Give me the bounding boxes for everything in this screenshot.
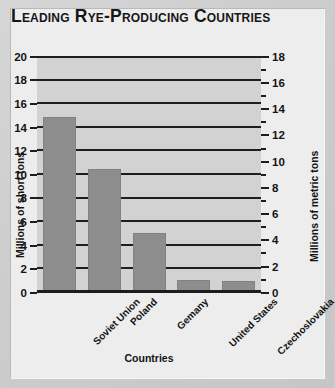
y-tick-left: 18 [11, 71, 37, 89]
y-tick-left-label: 0 [11, 287, 27, 299]
x-axis-title: Countries [37, 352, 261, 364]
y-tick-right-mark [261, 266, 269, 268]
y-tick-left: 14 [11, 118, 37, 136]
y-tick-right-mark [261, 187, 269, 189]
y-tick-right-label: 4 [272, 234, 278, 246]
y-tick-left-label: 18 [11, 74, 27, 86]
y-tick-left-label: 16 [11, 98, 27, 110]
y-tick-left-mark [30, 268, 37, 270]
y-tick-right-minor [261, 217, 269, 235]
y-tick-right-mark [261, 148, 266, 150]
y-tick-right-mark [261, 161, 269, 163]
y-tick-right-mark [261, 200, 266, 202]
y-tick-left-mark [30, 56, 37, 58]
chart-title: Leading Rye-Producing Countries [11, 6, 301, 26]
y-tick-left-mark [30, 103, 37, 105]
y-tick-left: 16 [11, 94, 37, 112]
y-tick-left-label: 2 [11, 263, 27, 275]
y-tick-right-mark [261, 174, 266, 176]
category-label: Gemany [175, 296, 211, 332]
y-tick-right-label: 8 [272, 182, 278, 194]
y-tick-right-minor [261, 270, 269, 288]
y-tick-left-mark [30, 150, 37, 152]
y-tick-right-mark [261, 82, 269, 84]
y-tick-right-label: 16 [272, 77, 285, 89]
bar [43, 117, 76, 292]
y-tick-right-mark [261, 134, 269, 136]
y-tick-right-minor [261, 165, 269, 183]
y-tick-left-label: 14 [11, 122, 27, 134]
y-tick-right-mark [261, 213, 269, 215]
y-tick-left-label: 20 [11, 51, 27, 63]
y-tick-right-label: 18 [272, 51, 285, 63]
y-tick-left-mark [30, 221, 37, 223]
y-tick-left-mark [30, 174, 37, 176]
y-tick-right-label: 10 [272, 156, 285, 168]
y-tick-right-mark [261, 121, 266, 123]
y-tick-left-mark [30, 197, 37, 199]
y-tick-left: 20 [11, 47, 37, 65]
y-tick-right-mark [261, 69, 266, 71]
y-tick-right-minor [261, 139, 269, 157]
y-tick-right-label: 6 [272, 208, 278, 220]
y-tick-right-minor [261, 244, 269, 262]
y-tick-left-mark [30, 127, 37, 129]
y-tick-left-mark [30, 79, 37, 81]
y-tick-right-mark [261, 108, 269, 110]
plot-area [37, 56, 261, 292]
y-axis-left-title: Millions of short tons [14, 152, 26, 258]
y-tick-right-label: 2 [272, 261, 278, 273]
bar [133, 233, 166, 292]
y-tick-right-mark [261, 239, 269, 241]
y-tick-right-minor [261, 86, 269, 104]
y-tick-right-mark [261, 226, 266, 228]
y-tick-right-minor [261, 113, 269, 131]
y-tick-right-mark [261, 95, 266, 97]
y-tick-left: 2 [11, 259, 37, 277]
y-tick-right-mark [261, 279, 266, 281]
y-axis-right-title: Millions of metric tons [308, 151, 320, 262]
y-tick-right-mark [261, 56, 269, 58]
y-tick-right-label: 14 [272, 103, 285, 115]
bar [88, 169, 121, 292]
y-tick-right-minor [261, 60, 269, 78]
y-tick-left-mark [30, 292, 37, 294]
category-labels: Soviet UnionPolandGemanyUnited StatesCze… [37, 292, 261, 352]
bar-series [37, 56, 261, 292]
y-tick-right-mark [261, 252, 266, 254]
y-tick-right-minor [261, 191, 269, 209]
y-tick-left-mark [30, 245, 37, 247]
y-tick-right-label: 12 [272, 129, 285, 141]
y-tick-right-mark [261, 292, 269, 294]
y-tick-left: 0 [11, 283, 37, 301]
